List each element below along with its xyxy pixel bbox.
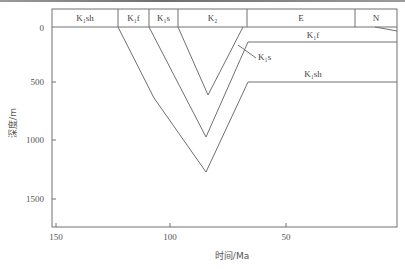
label-k1f: K₁f — [307, 30, 320, 40]
y-axis-title: 深度/m — [7, 108, 18, 138]
header-cell-k2: K₂ — [208, 13, 218, 23]
y-tick-1000: 1000 — [26, 135, 45, 145]
x-axis-title: 时间/Ma — [215, 250, 249, 261]
x-tick-150: 150 — [49, 232, 63, 242]
header-cell-e: E — [298, 13, 304, 23]
k1s-leader-line — [238, 45, 256, 58]
label-k1sh: K₁sh — [304, 69, 322, 79]
header-cell-k1sh: K₁sh — [76, 13, 94, 23]
header-cell-n: N — [373, 13, 380, 23]
label-k1s: K₁s — [258, 52, 272, 62]
x-tick-50: 50 — [282, 232, 292, 242]
y-tick-500: 500 — [31, 77, 45, 87]
x-tick-100: 100 — [163, 232, 177, 242]
y-tick-0: 0 — [40, 23, 45, 33]
header-cell-k1s: K₁s — [157, 13, 171, 23]
n-base-line — [375, 27, 397, 31]
header-cell-k1f: K₁f — [127, 13, 140, 23]
k1s-burial-curve — [178, 27, 243, 95]
burial-history-chart: K₁sh K₁f K₁s K₂ E N K₁f K₁s K₁sh 0 500 1… — [0, 0, 405, 269]
y-tick-1500: 1500 — [26, 194, 45, 204]
